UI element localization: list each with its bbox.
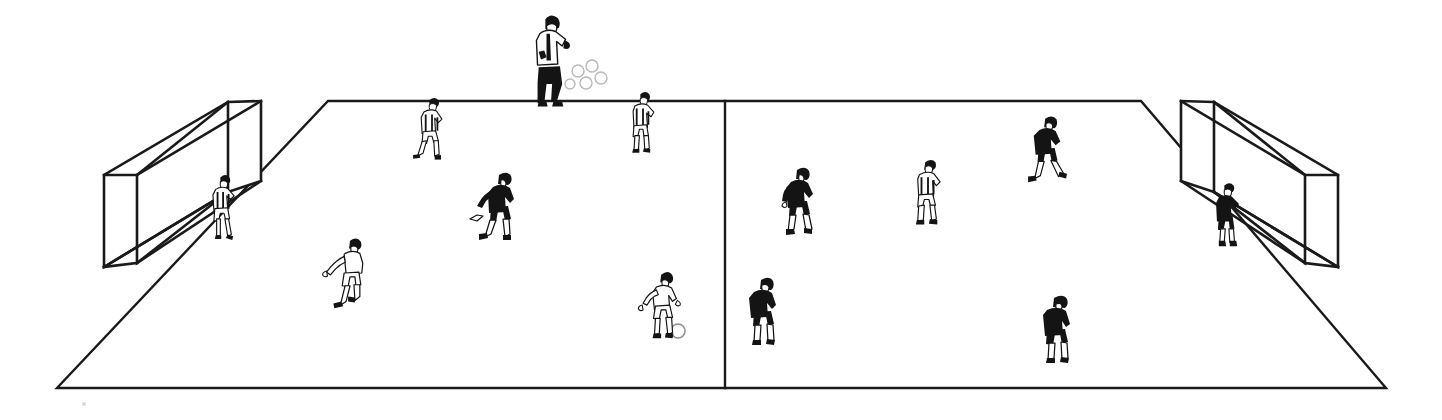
goal-left — [104, 101, 261, 267]
ball-group — [82, 60, 685, 406]
dark-player-1 — [470, 173, 514, 240]
white-player-3 — [323, 238, 363, 308]
play-ball — [671, 324, 685, 338]
dark-player-5 — [1043, 296, 1070, 363]
dark-player-3 — [1028, 116, 1067, 182]
goal-right — [1181, 101, 1338, 267]
white-player-1 — [413, 98, 442, 160]
coach-figure — [536, 15, 570, 106]
dark-player-2 — [782, 168, 813, 235]
supply-ball-3 — [580, 77, 592, 89]
supply-ball-5 — [565, 79, 575, 89]
diagram-svg — [0, 0, 1442, 420]
supply-ball-2 — [586, 60, 598, 72]
white-player-5 — [916, 160, 940, 225]
supply-ball-1 — [572, 65, 584, 77]
supply-ball-4 — [595, 72, 607, 84]
page-speck — [82, 402, 86, 406]
dark-player-4 — [749, 278, 776, 345]
field-diagram-canvas: Soccer training drill field diagram Pers… — [0, 0, 1442, 420]
